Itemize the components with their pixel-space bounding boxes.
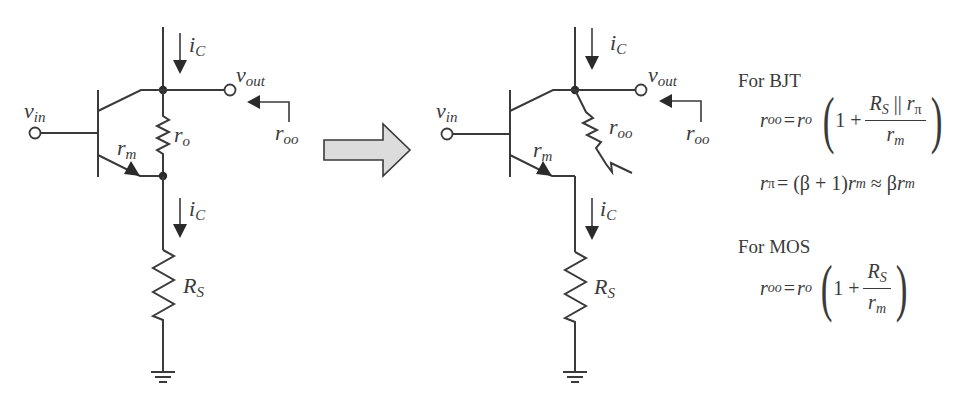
mos-fraction: RS rm <box>863 260 890 317</box>
ic-top-arrow-icon <box>585 28 599 70</box>
ic-bottom-label: iC <box>189 196 206 223</box>
vin-label: vin <box>24 98 45 125</box>
rs-resistor <box>565 252 586 372</box>
vout-terminal <box>636 85 647 96</box>
vout-terminal <box>225 85 236 96</box>
mos-heading: For MOS <box>738 236 810 258</box>
rs-label: RS <box>182 273 204 300</box>
circuit-diagram: iC vout roo vin rm ro <box>0 0 974 401</box>
ic-top-label: iC <box>610 30 627 57</box>
rm-label: rm <box>117 135 137 162</box>
rs-resistor <box>153 250 174 372</box>
bjt-rpi-formula: rπ = (β + 1) rm ≈ β rm <box>760 172 915 195</box>
ground-icon <box>151 372 175 382</box>
vout-label: vout <box>648 62 678 89</box>
collector-lead <box>98 90 163 111</box>
right-circuit: iC vout roo vin rm roo iC RS <box>436 27 710 382</box>
roo-label: roo <box>686 120 710 147</box>
transform-arrow-icon <box>324 124 410 176</box>
collector-lead <box>510 90 575 111</box>
vout-label: vout <box>236 62 266 89</box>
rm-label: rm <box>533 137 553 164</box>
ground-icon <box>563 372 587 382</box>
left-circuit: iC vout roo vin rm ro <box>24 27 299 382</box>
left-paren: ( <box>821 256 833 320</box>
bjt-roo-formula: roo = ro ( 1 + RS || rπ rm ) <box>760 88 943 152</box>
ic-top-arrow-icon <box>173 33 187 74</box>
rs-label: RS <box>593 274 615 301</box>
vin-terminal <box>442 129 453 140</box>
roo-lookin-arrow-icon <box>659 94 701 122</box>
roo-resistor-label: roo <box>609 114 633 141</box>
right-paren: ) <box>930 88 942 152</box>
left-paren: ( <box>823 88 835 152</box>
roo-lookin-arrow-icon <box>247 95 289 122</box>
bjt-fraction: RS || rπ rm <box>865 92 925 149</box>
right-paren: ) <box>895 256 907 320</box>
ic-bottom-arrow-icon <box>173 198 187 238</box>
ic-bottom-arrow-icon <box>585 198 599 240</box>
ro-label: ro <box>174 122 191 149</box>
mos-roo-formula: roo = ro ( 1 + RS rm ) <box>760 256 908 320</box>
roo-label: roo <box>275 120 299 147</box>
vin-terminal <box>30 128 41 139</box>
ic-top-label: iC <box>189 32 206 59</box>
vin-label: vin <box>436 98 457 125</box>
ro-resistor <box>157 90 169 176</box>
ic-bottom-label: iC <box>600 196 617 223</box>
